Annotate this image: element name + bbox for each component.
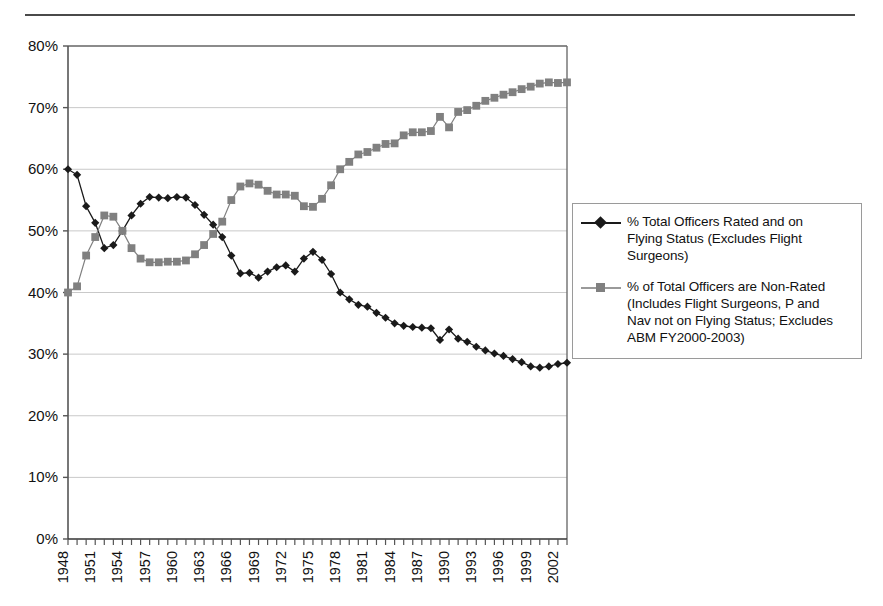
data-point-marker (472, 102, 480, 110)
chart-figure: 0%10%20%30%40%50%60%70%80%19481951195419… (0, 0, 883, 606)
data-point-marker (354, 151, 362, 159)
data-point-marker (227, 251, 235, 259)
y-tick-label: 70% (28, 99, 58, 116)
data-point-marker (536, 364, 544, 372)
data-point-marker (536, 80, 544, 88)
data-point-marker (454, 108, 462, 116)
data-point-marker (545, 362, 553, 370)
data-point-marker (109, 241, 117, 249)
x-tick-label: 1954 (109, 551, 125, 583)
legend-label-rated: % Total Officers Rated and on Flying Sta… (627, 213, 803, 264)
y-tick-label: 10% (28, 468, 58, 485)
data-point-marker (155, 258, 163, 266)
data-point-marker (273, 263, 281, 271)
data-point-marker (554, 79, 562, 87)
x-tick-label: 1984 (382, 551, 398, 583)
legend-entry-rated: % Total Officers Rated and on Flying Sta… (581, 213, 853, 264)
data-point-marker (227, 196, 235, 204)
data-point-marker (173, 193, 181, 201)
data-point-marker (508, 355, 516, 363)
x-tick-label: 1981 (354, 551, 370, 583)
data-point-marker (382, 140, 390, 148)
series-rated (64, 165, 571, 372)
data-point-marker (264, 267, 272, 275)
x-tick-label: 1996 (490, 551, 506, 583)
data-point-marker (164, 194, 172, 202)
data-point-marker (500, 91, 508, 99)
x-tick-label: 1951 (82, 551, 98, 583)
x-tick-label: 1969 (246, 551, 262, 583)
data-point-marker (373, 144, 381, 152)
data-point-marker (563, 359, 571, 367)
data-point-marker (418, 324, 426, 332)
data-point-marker (209, 230, 217, 238)
y-tick-label: 30% (28, 345, 58, 362)
x-tick-label: 1948 (55, 551, 71, 583)
data-point-marker (82, 202, 90, 210)
data-point-marker (554, 360, 562, 368)
data-point-marker (481, 346, 489, 354)
data-point-marker (354, 301, 362, 309)
data-point-marker (545, 78, 553, 86)
x-tick-label: 1966 (218, 551, 234, 583)
data-point-marker (327, 270, 335, 278)
data-point-marker (91, 233, 99, 241)
data-point-marker (391, 139, 399, 147)
data-point-marker (218, 218, 226, 226)
data-point-marker (73, 282, 81, 290)
data-point-marker (381, 314, 389, 322)
series-nonrated (64, 78, 571, 296)
y-tick-label: 20% (28, 407, 58, 424)
x-tick-label: 1987 (409, 551, 425, 583)
data-point-marker (363, 303, 371, 311)
data-point-marker (400, 131, 408, 139)
data-point-marker (327, 181, 335, 189)
data-point-marker (137, 255, 145, 263)
data-point-marker (245, 269, 253, 277)
x-tick-label: 1963 (191, 551, 207, 583)
data-point-marker (427, 127, 435, 135)
y-tick-label: 60% (28, 160, 58, 177)
data-point-marker (182, 257, 190, 265)
data-point-marker (318, 195, 326, 203)
legend-key-diamond-icon (581, 214, 621, 231)
data-point-marker (527, 83, 535, 91)
chart-legend: % Total Officers Rated and on Flying Sta… (572, 203, 862, 359)
data-point-marker (64, 289, 72, 297)
data-point-marker (563, 78, 571, 86)
data-point-marker (509, 88, 517, 96)
data-point-marker (173, 258, 181, 266)
data-point-marker (518, 358, 526, 366)
data-point-marker (254, 274, 262, 282)
x-tick-label: 1978 (327, 551, 343, 583)
x-tick-label: 1993 (463, 551, 479, 583)
data-point-marker (82, 252, 90, 260)
x-tick-label: 1972 (273, 551, 289, 583)
y-tick-label: 50% (28, 222, 58, 239)
data-point-marker (273, 191, 281, 199)
data-point-marker (436, 113, 444, 121)
data-point-marker (191, 250, 199, 258)
data-point-marker (490, 349, 498, 357)
data-point-marker (291, 192, 299, 200)
data-point-marker (146, 258, 154, 266)
data-point-marker (445, 123, 453, 131)
data-point-marker (527, 362, 535, 370)
data-point-marker (200, 241, 208, 249)
data-point-marker (119, 227, 127, 235)
data-point-marker (91, 219, 99, 227)
legend-entry-nonrated: % of Total Officers are Non-Rated (Inclu… (581, 278, 853, 346)
data-point-marker (100, 212, 108, 220)
x-tick-label: 1975 (300, 551, 316, 583)
data-point-marker (282, 261, 290, 269)
data-point-marker (236, 183, 244, 191)
data-point-marker (164, 258, 172, 266)
data-point-marker (518, 85, 526, 93)
series-line (68, 169, 567, 367)
x-tick-label: 1999 (518, 551, 534, 583)
data-point-marker (73, 171, 81, 179)
data-point-marker (300, 202, 308, 210)
data-point-marker (481, 97, 489, 105)
data-point-marker (463, 106, 471, 114)
data-point-marker (100, 244, 108, 252)
